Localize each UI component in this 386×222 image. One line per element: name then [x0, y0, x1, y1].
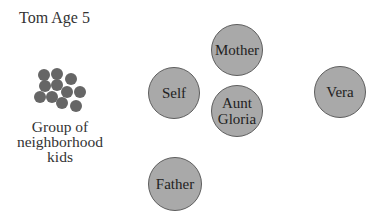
node-label: Gloria	[218, 111, 256, 127]
node-label: Father	[156, 176, 194, 192]
node-father: Father	[148, 157, 202, 211]
node-label: Mother	[215, 42, 259, 58]
kid-dot	[34, 91, 46, 103]
kid-dot	[70, 100, 82, 112]
diagram-title: Tom Age 5	[19, 9, 90, 27]
kid-dot	[65, 73, 77, 85]
node-self: Self	[148, 67, 200, 119]
node-vera: Vera	[314, 66, 366, 118]
caption-line: Group of	[10, 119, 110, 134]
kid-dot	[74, 86, 86, 98]
node-label: Aunt	[222, 95, 252, 111]
group-caption: Group of neighborhood kids	[10, 119, 110, 164]
caption-line: kids	[10, 149, 110, 164]
node-label: Vera	[326, 84, 353, 100]
caption-line: neighborhood	[10, 134, 110, 149]
kid-dot	[56, 97, 68, 109]
node-label: Self	[162, 85, 186, 101]
node-mother: Mother	[211, 24, 263, 76]
node-aunt-gloria: Aunt Gloria	[211, 85, 263, 137]
